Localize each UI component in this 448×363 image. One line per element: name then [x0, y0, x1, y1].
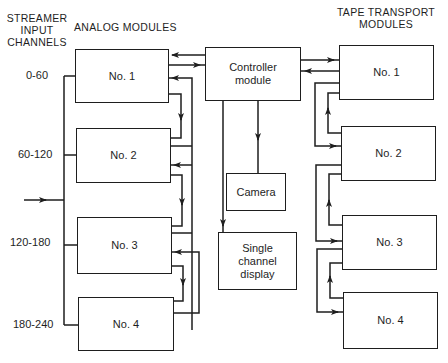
module-label: No. 1 — [109, 70, 135, 83]
controller-module: Controller module — [205, 47, 301, 101]
tape-module-2: No. 2 — [341, 126, 436, 181]
single-channel-display: Single channel display — [218, 232, 297, 290]
header-line: CHANNELS — [4, 36, 70, 48]
channel-label: 120-180 — [10, 236, 50, 248]
channel-label: 180-240 — [13, 318, 53, 330]
channel-label: 60-120 — [18, 148, 52, 160]
tape-module-1: No. 1 — [339, 45, 434, 100]
tape-module-3: No. 3 — [342, 215, 437, 270]
display-label: Single channel display — [238, 242, 277, 281]
analog-module-1: No. 1 — [75, 49, 169, 103]
header-line: TAPE TRANSPORT — [334, 6, 438, 18]
camera-box: Camera — [226, 173, 286, 211]
module-label: No. 3 — [111, 239, 137, 252]
streamer-input-channels-header: STREAMER INPUT CHANNELS — [4, 12, 70, 48]
controller-label: Controller module — [229, 61, 277, 87]
analog-module-4: No. 4 — [78, 297, 174, 351]
channel-label: 0-60 — [26, 69, 48, 81]
camera-label: Camera — [236, 186, 275, 199]
analog-modules-header: ANALOG MODULES — [74, 21, 177, 33]
module-label: No. 4 — [113, 318, 139, 331]
module-label: No. 2 — [110, 149, 136, 162]
module-label: No. 2 — [375, 147, 401, 160]
header-line: MODULES — [334, 18, 438, 30]
tape-transport-header: TAPE TRANSPORT MODULES — [334, 6, 438, 30]
module-label: No. 3 — [376, 236, 402, 249]
header-line: INPUT — [4, 24, 70, 36]
module-label: No. 4 — [377, 314, 403, 327]
header-line: STREAMER — [4, 12, 70, 24]
tape-module-4: No. 4 — [343, 292, 438, 349]
module-label: No. 1 — [373, 66, 399, 79]
analog-module-3: No. 3 — [77, 217, 172, 274]
analog-module-2: No. 2 — [76, 128, 171, 183]
